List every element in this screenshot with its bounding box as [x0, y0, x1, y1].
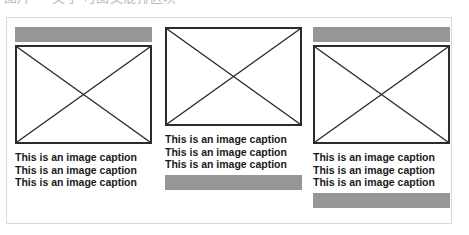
placeholder-bar-top-1	[15, 27, 152, 42]
placeholder-cross-icon	[315, 47, 448, 142]
placeholder-cross-icon	[167, 29, 300, 124]
clipped-heading-strip: 图片 — 文字 可图文混排区块	[0, 0, 469, 11]
figure-column-2: This is an image caption This is an imag…	[165, 27, 302, 190]
placeholder-bar-bottom-2	[165, 175, 302, 190]
image-caption-2: This is an image caption This is an imag…	[165, 133, 302, 171]
image-caption-3: This is an image caption This is an imag…	[313, 151, 450, 189]
placeholder-cross-icon	[17, 47, 150, 142]
placeholder-bar-top-3	[313, 27, 450, 42]
image-placeholder-1[interactable]	[15, 45, 152, 144]
image-placeholder-3[interactable]	[313, 45, 450, 144]
figure-column-3: This is an image caption This is an imag…	[313, 27, 450, 208]
placeholder-bar-bottom-3	[313, 193, 450, 208]
figure-container: This is an image caption This is an imag…	[6, 17, 452, 224]
image-placeholder-2[interactable]	[165, 27, 302, 126]
figure-column-list: This is an image caption This is an imag…	[7, 18, 451, 223]
image-caption-1: This is an image caption This is an imag…	[15, 151, 152, 189]
clipped-heading-text: 图片 — 文字 可图文混排区块	[4, 0, 177, 5]
figure-column-1: This is an image caption This is an imag…	[15, 27, 152, 189]
